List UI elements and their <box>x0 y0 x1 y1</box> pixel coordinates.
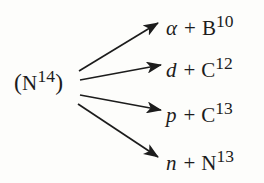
reactant-label: (N14) <box>14 66 86 96</box>
plus-sign-1: + <box>184 58 196 83</box>
arrow-to-p-c13 <box>80 95 161 110</box>
nuclear-reaction-diagram: (N14) α+B10 d+C12 p+C13 n+N13 <box>0 0 264 183</box>
product-particle-1: d <box>166 58 177 82</box>
product-nuclide-1: C <box>201 58 215 82</box>
product-row-2: p+C13 <box>166 98 233 128</box>
product-row-3: n+N13 <box>166 146 234 176</box>
product-mass-number-3: 13 <box>217 146 235 166</box>
product-row-0: α+B10 <box>166 11 233 41</box>
reactant-open-paren: ( <box>14 69 22 95</box>
product-particle-3: n <box>166 151 177 175</box>
reactant-symbol: N <box>22 71 37 95</box>
product-nuclide-2: C <box>201 103 215 127</box>
product-particle-0: α <box>166 16 177 40</box>
plus-sign-3: + <box>184 151 196 176</box>
reactant-close-paren: ) <box>55 69 63 95</box>
product-mass-number-1: 12 <box>215 53 233 73</box>
product-row-1: d+C12 <box>166 53 233 83</box>
product-nuclide-3: N <box>201 151 216 175</box>
product-particle-2: p <box>166 103 177 127</box>
plus-sign-0: + <box>184 16 196 41</box>
product-mass-number-0: 10 <box>216 11 234 31</box>
product-mass-number-2: 13 <box>215 98 233 118</box>
arrow-to-d-c12 <box>80 65 161 80</box>
product-nuclide-0: B <box>202 16 216 40</box>
arrow-to-n-n13 <box>78 104 158 157</box>
plus-sign-2: + <box>184 103 196 128</box>
reactant-mass-number: 14 <box>37 66 55 86</box>
arrow-to-alpha-b10 <box>79 23 158 71</box>
